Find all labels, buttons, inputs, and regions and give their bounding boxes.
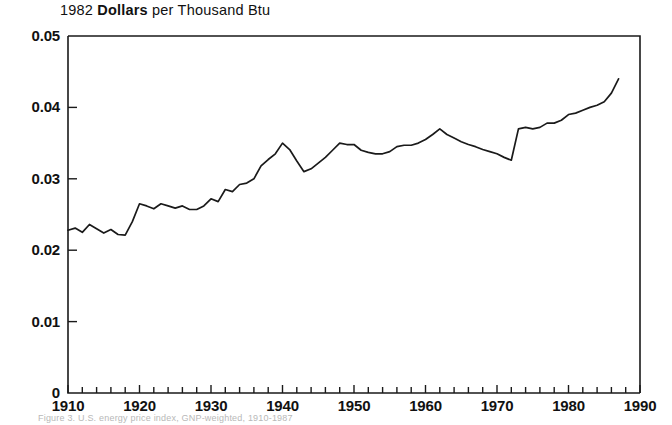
figure-container: 1982 Dollars per Thousand Btu Figure 3. … (0, 0, 672, 425)
x-axis-label: 1980 (539, 397, 599, 414)
data-series-line (68, 79, 619, 235)
x-axis-label: 1990 (610, 397, 670, 414)
y-axis-label: 0.02 (2, 241, 60, 258)
x-axis-label: 1960 (396, 397, 456, 414)
x-axis-label: 1920 (110, 397, 170, 414)
figure-caption: Figure 3. U.S. energy price index, GNP-w… (38, 413, 293, 423)
x-axis-label: 1910 (38, 397, 98, 414)
x-axis-label: 1970 (467, 397, 527, 414)
line-chart-plot (0, 0, 672, 425)
y-axis-label: 0.01 (2, 313, 60, 330)
y-axis-label: 0.03 (2, 170, 60, 187)
plot-frame (68, 36, 640, 393)
y-axis-label: 0.05 (2, 27, 60, 44)
x-axis-label: 1950 (324, 397, 384, 414)
x-axis-label: 1940 (253, 397, 313, 414)
x-axis-label: 1930 (181, 397, 241, 414)
y-axis-label: 0.04 (2, 98, 60, 115)
